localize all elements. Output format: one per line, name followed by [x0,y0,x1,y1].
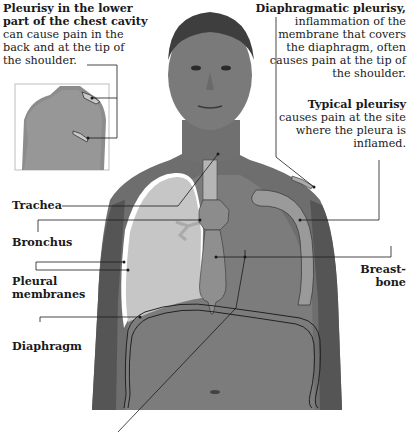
typical-callout-body-2: where the pleura is [246,124,406,137]
diaphragmatic-callout-body-2: membrane that covers [246,28,406,41]
typical-callout-title: Typical pleurisy [246,98,406,111]
label-breastbone-2: bone [346,276,406,289]
lower-chest-callout-body-2: back and at the tip of [3,41,124,54]
diaphragmatic-callout-body-5: the shoulder. [246,67,406,80]
diaphragmatic-callout-title: Diaphragmatic pleurisy, [246,2,406,15]
diaphragmatic-callout-body-1: inflammation of the [246,15,406,28]
lower-chest-callout-body-3: the shoulder. [3,54,77,67]
diaphragmatic-callout-body-3: the diaphragm, often [246,41,406,54]
typical-callout-body-3: inflamed. [246,137,406,150]
label-bronchus: Bronchus [12,236,72,249]
label-pleural-membranes-2: membranes [12,288,85,301]
back-view-inset [15,84,109,170]
typical-callout-body-1: causes pain at the site [246,111,406,124]
lower-chest-callout-body-1: can cause pain in the [3,28,124,41]
lower-chest-callout-title-2: part of the chest cavity [3,15,147,28]
label-trachea: Trachea [12,199,62,212]
diaphragmatic-callout-body-4: causes pain at the tip of [246,54,406,67]
label-diaphragm: Diaphragm [12,340,82,353]
